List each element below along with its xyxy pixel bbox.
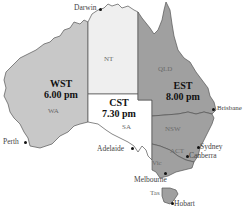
city-dot-hobart xyxy=(171,202,174,205)
city-label-hobart: Hobart xyxy=(174,200,195,208)
zone-wst-time: 6.00 pm xyxy=(36,89,86,100)
city-dot-darwin xyxy=(99,8,102,11)
state-label-qld: QLD xyxy=(158,66,172,73)
zone-wst-abbr: WST xyxy=(36,78,86,89)
city-dot-perth xyxy=(24,141,27,144)
region-nt xyxy=(88,4,138,94)
zone-wst: WST 6.00 pm xyxy=(36,78,86,100)
state-label-tas: Tas xyxy=(150,190,160,197)
zone-est-time: 8.00 pm xyxy=(158,91,208,102)
city-dot-canberra xyxy=(186,155,189,158)
city-label-perth: Perth xyxy=(3,138,19,146)
state-label-sa: SA xyxy=(122,124,131,131)
zone-cst: CST 7.30 pm xyxy=(94,97,144,119)
city-label-darwin: Darwin xyxy=(74,4,97,12)
state-label-nt: NT xyxy=(104,56,113,63)
state-label-wa: WA xyxy=(48,108,59,115)
state-label-vic: Vic xyxy=(152,160,162,167)
city-label-sydney: Sydney xyxy=(200,143,223,151)
city-label-adelaide: Adelaide xyxy=(97,145,124,153)
city-label-melbourne: Melbourne xyxy=(134,176,167,184)
city-dot-brisbane xyxy=(212,108,215,111)
city-label-canberra: Canberra xyxy=(189,152,216,160)
city-dot-adelaide xyxy=(131,147,134,150)
zone-cst-time: 7.30 pm xyxy=(94,108,144,119)
zone-est-abbr: EST xyxy=(158,80,208,91)
city-dot-melbourne xyxy=(164,172,167,175)
city-label-brisbane: Brisbane xyxy=(217,105,242,112)
zone-est: EST 8.00 pm xyxy=(158,80,208,102)
city-dot-sydney xyxy=(197,146,200,149)
state-label-act: ACT xyxy=(170,148,184,155)
state-label-nsw: NSW xyxy=(165,126,181,133)
zone-cst-abbr: CST xyxy=(94,97,144,108)
